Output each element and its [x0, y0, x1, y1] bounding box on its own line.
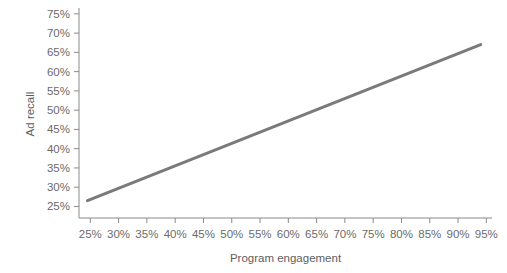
x-tick-label: 65%: [305, 228, 328, 240]
x-tick-label: 30%: [107, 228, 130, 240]
y-tick-label: 65%: [47, 46, 70, 58]
y-tick-label: 55%: [47, 85, 70, 97]
chart-container: 25%30%35%40%45%50%55%60%65%70%75%25%30%3…: [0, 0, 507, 273]
x-tick-label: 75%: [362, 228, 385, 240]
x-tick-label: 60%: [277, 228, 300, 240]
y-tick-label: 50%: [47, 104, 70, 116]
y-tick-label: 75%: [47, 8, 70, 20]
x-tick-label: 40%: [164, 228, 187, 240]
y-tick-label: 35%: [47, 162, 70, 174]
x-tick-label: 85%: [418, 228, 441, 240]
x-tick-label: 80%: [390, 228, 413, 240]
x-tick-label: 35%: [135, 228, 158, 240]
y-tick-label: 60%: [47, 66, 70, 78]
series-line: [87, 45, 480, 201]
y-tick-label: 45%: [47, 123, 70, 135]
x-tick-label: 90%: [447, 228, 470, 240]
x-tick-label: 50%: [220, 228, 243, 240]
y-tick-label: 25%: [47, 200, 70, 212]
line-chart: 25%30%35%40%45%50%55%60%65%70%75%25%30%3…: [0, 0, 507, 273]
x-tick-label: 70%: [333, 228, 356, 240]
x-tick-label: 25%: [79, 228, 102, 240]
y-tick-label: 30%: [47, 181, 70, 193]
y-tick-label: 40%: [47, 143, 70, 155]
chart-axes: [79, 8, 492, 218]
x-axis-title: Program engagement: [230, 252, 342, 264]
x-tick-label: 55%: [249, 228, 272, 240]
x-tick-label: 95%: [475, 228, 498, 240]
y-tick-label: 70%: [47, 27, 70, 39]
x-tick-label: 45%: [192, 228, 215, 240]
y-axis-title: Ad recall: [24, 92, 36, 137]
